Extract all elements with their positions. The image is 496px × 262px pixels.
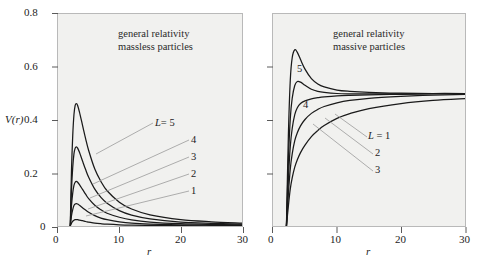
leader-R-L1	[335, 114, 367, 137]
leader-L4	[93, 140, 189, 184]
left-ytick-0: 0	[40, 220, 46, 232]
right-panel-caption-line1: general relativity	[333, 27, 404, 40]
curve-l-1	[286, 99, 465, 226]
left-ytick-0.4: 0.4	[24, 113, 38, 125]
right-xtick-10: 10	[330, 233, 341, 245]
left-xtick-20: 20	[175, 233, 186, 245]
right-y-tickmarks	[265, 10, 274, 232]
right-panel-caption-line2: massive particles	[333, 40, 405, 53]
right-curve-label-3: 3	[375, 164, 380, 175]
figure-two-panel-potential-plots: 0.8 0.6 0.4 0.2 0 V(r) 0 10 20 30 r gene…	[0, 0, 496, 262]
right-curve-label-eq1: = 1	[374, 130, 390, 141]
left-panel-caption-line1: general relativity	[118, 27, 189, 40]
right-xtick-20: 20	[395, 233, 406, 245]
left-curve-label-4: 4	[191, 134, 196, 145]
left-leader-lines	[86, 123, 189, 216]
right-curve-label-2: 2	[375, 147, 380, 158]
right-leader-lines	[313, 114, 373, 171]
left-curve-label-3: 3	[191, 151, 196, 162]
left-curve-label-L5: L= 5	[155, 117, 175, 128]
left-ytick-0.6: 0.6	[24, 60, 38, 72]
leader-L3	[90, 157, 189, 198]
left-y-axis-label: V(r)	[5, 113, 23, 125]
left-x-axis-label: r	[147, 245, 151, 257]
left-y-tickmarks	[50, 10, 59, 232]
left-panel-caption-line2: massless particles	[118, 40, 193, 53]
left-ytick-0.2: 0.2	[24, 167, 38, 179]
right-curve-label-5: 5	[297, 63, 302, 74]
right-x-axis-label: r	[366, 245, 370, 257]
curve-3	[286, 94, 465, 227]
curve-4	[70, 147, 242, 226]
right-curve-label-4: 4	[303, 99, 308, 110]
right-xtick-30: 30	[459, 233, 470, 245]
left-x-tickmarks	[55, 226, 247, 235]
right-xtick-0: 0	[268, 233, 274, 245]
leader-L1	[86, 191, 189, 216]
left-curve-label-2: 2	[191, 168, 196, 179]
curve-2	[286, 94, 465, 226]
left-xtick-10: 10	[113, 233, 124, 245]
left-xtick-0: 0	[53, 233, 59, 245]
left-curve-label-1: 1	[191, 185, 196, 196]
right-x-tickmarks	[270, 226, 470, 235]
left-xtick-30: 30	[237, 233, 248, 245]
leader-L5	[96, 123, 153, 154]
left-curve-label-eq5: = 5	[161, 117, 175, 128]
right-curve-label-L1: L = 1	[368, 130, 390, 141]
left-ytick-0.8: 0.8	[24, 6, 38, 18]
